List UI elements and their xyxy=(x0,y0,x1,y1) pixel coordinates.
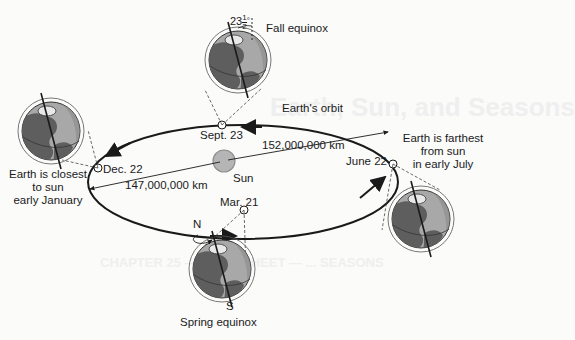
date-sept: Sept. 23 xyxy=(200,129,243,142)
globe-fall-equinox xyxy=(205,22,271,98)
globe-summer-solstice xyxy=(388,181,454,257)
aphelion-distance-label: 152,000,000 km xyxy=(262,139,344,152)
perihelion-distance-label: 147,000,000 km xyxy=(125,179,207,192)
orbit-direction-arrow xyxy=(360,177,385,198)
sun-label: Sun xyxy=(233,172,253,185)
date-mar: Mar. 21 xyxy=(220,196,258,209)
south-pole-label: S xyxy=(226,300,234,313)
spring-equinox-label: Spring equinox xyxy=(180,316,257,329)
orbit-direction-arrow xyxy=(106,143,130,156)
orbit-label: Earth's orbit xyxy=(282,102,343,115)
fall-equinox-label: Fall equinox xyxy=(266,22,328,35)
north-pole-label: N xyxy=(193,218,201,231)
tilt-angle-label: 2312° xyxy=(230,14,250,31)
sun xyxy=(213,150,235,172)
globe-winter-solstice xyxy=(18,93,84,169)
date-dec: Dec. 22 xyxy=(103,163,143,176)
aphelion-caption: Earth is farthest from sun in early July xyxy=(400,132,486,171)
perihelion-caption: Earth is closest to sun early January xyxy=(0,168,96,207)
date-june: June 22 xyxy=(346,155,387,168)
